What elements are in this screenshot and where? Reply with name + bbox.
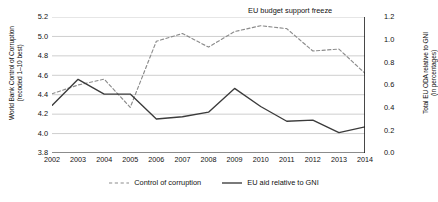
plot-area bbox=[52, 17, 365, 153]
y-axis-right-title-line2: (in percentages) bbox=[430, 3, 438, 143]
y-axis-left-tick-label: 4.6 bbox=[28, 72, 48, 79]
y-axis-left-tick-label: 5.2 bbox=[28, 13, 48, 20]
y-axis-right-title: Total EU ODA relative to GNI (in percent… bbox=[422, 3, 438, 143]
annotation-eu-budget-support-freeze: EU budget support freeze bbox=[248, 6, 332, 15]
legend-item-1[interactable]: Control of corruption bbox=[108, 178, 201, 187]
y-axis-left-tick-label: 4.4 bbox=[28, 91, 48, 98]
y-axis-right-tick-label: 0.8 bbox=[384, 59, 406, 66]
legend-swatch-dashed-icon bbox=[108, 179, 130, 187]
y-axis-right-title-line1: Total EU ODA relative to GNI bbox=[422, 32, 429, 114]
x-axis-ticks: 2002200320042005200620072008200920102011… bbox=[0, 156, 427, 168]
legend-label: EU aid relative to GNI bbox=[247, 178, 318, 187]
y-axis-left-tick-label: 4.2 bbox=[28, 110, 48, 117]
x-axis-tick-label: 2014 bbox=[350, 156, 380, 164]
y-axis-left-title: World Bank Control of Corruption (recode… bbox=[8, 3, 24, 143]
chart-legend: Control of corruptionEU aid relative to … bbox=[0, 178, 427, 187]
y-axis-right-tick-label: 1.0 bbox=[384, 36, 406, 43]
y-axis-left-tick-label: 4.8 bbox=[28, 52, 48, 59]
legend-swatch-solid-icon bbox=[221, 179, 243, 187]
y-axis-left-tick-label: 5.0 bbox=[28, 33, 48, 40]
y-axis-left-title-line1: World Bank Control of Corruption bbox=[8, 26, 15, 120]
y-axis-right-tick-label: 0.6 bbox=[384, 81, 406, 88]
plot-svg bbox=[52, 17, 365, 153]
y-axis-left-ticks: 5.25.04.84.64.44.24.03.8 bbox=[26, 0, 48, 202]
legend-item-2[interactable]: EU aid relative to GNI bbox=[221, 178, 318, 187]
y-axis-left-title-line2: (recoded 1–10 best) bbox=[16, 3, 24, 143]
y-axis-left-tick-label: 4.0 bbox=[28, 130, 48, 137]
y-axis-right-tick-label: 0.2 bbox=[384, 127, 406, 134]
y-axis-right-tick-label: 0.4 bbox=[384, 104, 406, 111]
y-axis-right-tick-label: 1.2 bbox=[384, 13, 406, 20]
legend-label: Control of corruption bbox=[134, 178, 201, 187]
series-line-1 bbox=[52, 26, 365, 108]
series-line-2 bbox=[52, 79, 365, 132]
series-lines bbox=[52, 26, 365, 133]
gridlines bbox=[52, 17, 365, 134]
y-axis-right-ticks: 1.21.00.80.60.40.20.0 bbox=[384, 0, 408, 202]
